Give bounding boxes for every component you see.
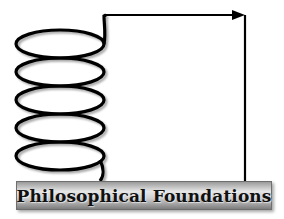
spring-coil-icon: [16, 15, 106, 181]
title-banner: Philosophical Foundations: [16, 181, 272, 210]
connector-line: [104, 15, 245, 181]
banner-title: Philosophical Foundations: [17, 186, 272, 206]
arrow-right-icon: [232, 10, 245, 20]
